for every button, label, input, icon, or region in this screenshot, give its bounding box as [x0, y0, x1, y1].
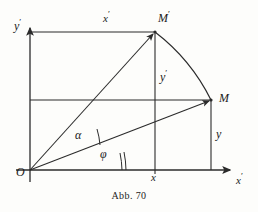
x-segment-label: x: [151, 172, 156, 183]
angle-phi-arc: [124, 152, 126, 170]
x-prime-top-label: x′: [103, 10, 110, 24]
rotation-diagram: [0, 0, 258, 212]
y-prime-segment-label: y′: [160, 69, 167, 83]
point-m-marker: [209, 98, 212, 101]
ray-o-to-m: [30, 101, 209, 170]
ray-o-to-m-prime: [30, 34, 153, 170]
angle-phi-arc-second: [120, 153, 122, 170]
rotation-arc: [155, 32, 211, 100]
angle-phi-label: φ: [100, 148, 107, 160]
angle-alpha-arc: [97, 129, 100, 145]
y-axis-label: y′: [14, 18, 21, 32]
origin-label: O: [16, 166, 25, 178]
angle-alpha-label: α: [75, 129, 81, 141]
point-m-prime-label: M′: [158, 10, 170, 24]
figure-caption: Abb. 70: [0, 190, 258, 201]
x-axis-label: x′: [236, 172, 243, 186]
point-m-prime-marker: [153, 30, 156, 33]
point-m-label: M: [219, 92, 229, 104]
y-segment-label: y: [216, 128, 221, 140]
